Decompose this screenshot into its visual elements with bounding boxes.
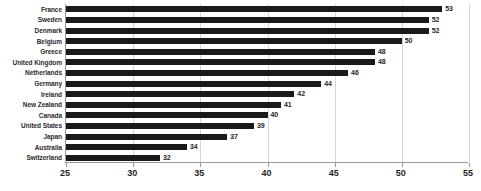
bar-row: 42 [66,91,468,97]
category-label: Switzerland [0,153,62,162]
axis-tick-mark [133,163,134,167]
bar-value-label: 46 [351,67,359,78]
bar-value-label: 48 [378,56,386,67]
bar [66,134,227,140]
axis-tick-mark [335,163,336,167]
bar-value-label: 40 [271,109,279,120]
category-label: Germany [0,79,62,88]
category-label: United Kingdom [0,58,62,67]
bar-row: 52 [66,17,468,23]
bar [66,112,268,118]
bar-value-label: 52 [432,25,440,36]
bar-row: 48 [66,49,468,55]
category-label: Canada [0,111,62,120]
axis-tick-mark [66,163,67,167]
category-label: New Zealand [0,100,62,109]
bar-row: 32 [66,155,468,161]
value-axis-tick-labels: 25303540455055 [65,168,468,188]
category-axis-labels: FranceSwedenDenmarkBelgiumGreeceUnited K… [0,4,62,163]
bar [66,81,321,87]
axis-tick-mark [402,163,403,167]
axis-tick-label: 35 [194,168,204,178]
category-label: Denmark [0,26,62,35]
bar-row: 34 [66,144,468,150]
bar-rows: 535252504848464442414039373432 [66,4,468,162]
bar-row: 52 [66,28,468,34]
bar [66,17,429,23]
bar [66,123,254,129]
bar-row: 44 [66,81,468,87]
category-label: Sweden [0,15,62,24]
bar [66,28,429,34]
axis-tick-label: 25 [60,168,70,178]
bar-value-label: 34 [190,141,198,152]
bar-value-label: 44 [324,78,332,89]
bar-value-label: 37 [230,131,238,142]
bar-row: 48 [66,59,468,65]
bar-value-label: 32 [163,152,171,163]
bar-value-label: 41 [284,99,292,110]
category-label: Netherlands [0,68,62,77]
bar-value-label: 52 [432,14,440,25]
bar [66,6,442,12]
axis-tick-label: 50 [396,168,406,178]
axis-tick-mark [469,163,470,167]
category-label: France [0,5,62,14]
bar-value-label: 48 [378,46,386,57]
category-label: Ireland [0,90,62,99]
bar [66,155,160,161]
bar-value-label: 50 [405,35,413,46]
bar-row: 40 [66,112,468,118]
bar-value-label: 42 [297,88,305,99]
axis-tick-label: 40 [261,168,271,178]
bar [66,102,281,108]
bar [66,144,187,150]
bar-row: 50 [66,38,468,44]
bar-row: 46 [66,70,468,76]
category-label: Belgium [0,37,62,46]
bar-value-label: 39 [257,120,265,131]
axis-tick-label: 55 [463,168,473,178]
bar [66,91,294,97]
axis-tick-mark [200,163,201,167]
axis-tick-mark [268,163,269,167]
plot-area: 535252504848464442414039373432 [65,4,468,163]
bar-value-label: 53 [445,3,453,14]
axis-tick-label: 30 [127,168,137,178]
bar-row: 39 [66,123,468,129]
axis-tick-label: 45 [329,168,339,178]
bar [66,38,402,44]
bar-row: 53 [66,6,468,12]
bar [66,59,375,65]
bar [66,70,348,76]
category-label: Australia [0,143,62,152]
bar-row: 41 [66,102,468,108]
gridline [469,4,470,162]
bar [66,49,375,55]
bar-row: 37 [66,134,468,140]
category-label: Greece [0,47,62,56]
category-label: Japan [0,132,62,141]
horizontal-bar-chart: FranceSwedenDenmarkBelgiumGreeceUnited K… [0,0,481,191]
category-label: United States [0,121,62,130]
